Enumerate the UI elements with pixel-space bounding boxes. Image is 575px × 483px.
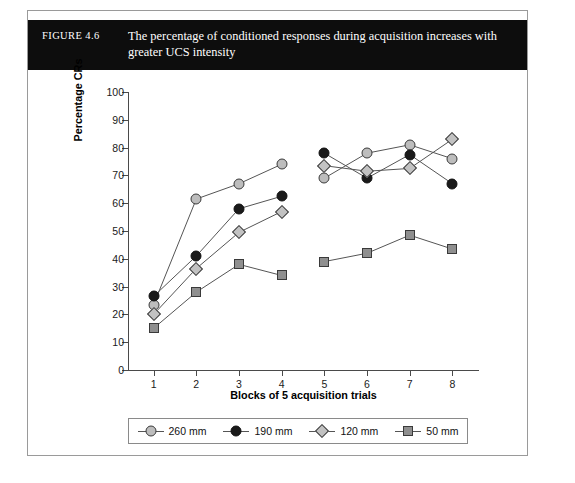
chart-legend: 260 mm190 mm120 mm50 mm: [128, 418, 468, 444]
series-line-190-mm: [154, 196, 282, 296]
data-point: [319, 173, 330, 184]
data-point: [319, 148, 330, 159]
data-point: [447, 178, 458, 189]
x-tick-mark: [452, 370, 453, 376]
x-tick-mark: [282, 370, 283, 376]
y-tick-label: 90: [112, 114, 124, 126]
series-line-260-mm: [324, 145, 452, 178]
y-axis-title: Percentage CRs: [72, 30, 84, 170]
figure-header-banner: FIGURE 4.6 The percentage of conditioned…: [28, 20, 527, 70]
data-point: [276, 191, 287, 202]
data-point: [319, 257, 329, 267]
y-tick-label: 80: [112, 142, 124, 154]
y-tick-label: 10: [112, 336, 124, 348]
legend-item-260-mm[interactable]: 260 mm: [138, 425, 207, 437]
data-point: [277, 270, 287, 280]
legend-symbol-circle-icon: [138, 425, 164, 437]
data-point: [191, 194, 202, 205]
chart-series-lines: [128, 92, 478, 370]
x-tick-mark: [239, 370, 240, 376]
x-tick-mark: [367, 370, 368, 376]
chart-plot-area: 0102030405060708090100 12345678: [128, 92, 478, 370]
figure-number: FIGURE 4.6: [42, 29, 128, 41]
series-line-50-mm: [154, 264, 282, 328]
series-line-260-mm: [154, 164, 282, 304]
circle-marker-icon: [231, 426, 242, 437]
data-point: [404, 149, 415, 160]
data-point: [191, 251, 202, 262]
data-point: [233, 178, 244, 189]
x-tick-mark: [154, 370, 155, 376]
y-tick-label: 60: [112, 197, 124, 209]
data-point: [405, 230, 415, 240]
square-marker-icon: [403, 426, 413, 436]
data-point: [362, 248, 372, 258]
diamond-marker-icon: [315, 424, 329, 438]
legend-symbol-circle-icon: [223, 425, 249, 437]
y-tick-label: 100: [106, 86, 124, 98]
legend-label: 190 mm: [254, 425, 292, 437]
y-tick-label: 30: [112, 281, 124, 293]
legend-label: 260 mm: [169, 425, 207, 437]
x-tick-mark: [410, 370, 411, 376]
data-point: [233, 203, 244, 214]
x-axis-title: Blocks of 5 acquisition trials: [128, 389, 479, 401]
legend-item-120-mm[interactable]: 120 mm: [309, 425, 378, 437]
y-tick-label: 0: [118, 364, 124, 376]
data-point: [148, 291, 159, 302]
series-line-120-mm: [154, 212, 282, 315]
circle-marker-icon: [145, 426, 156, 437]
data-point: [447, 153, 458, 164]
data-point: [447, 244, 457, 254]
data-point: [276, 159, 287, 170]
legend-item-50-mm[interactable]: 50 mm: [395, 425, 458, 437]
x-tick-mark: [324, 370, 325, 376]
legend-label: 50 mm: [426, 425, 458, 437]
series-line-50-mm: [324, 235, 452, 261]
legend-symbol-diamond-icon: [309, 425, 335, 437]
data-point: [191, 287, 201, 297]
legend-symbol-square-icon: [395, 425, 421, 437]
data-point: [149, 323, 159, 333]
x-axis-line: [128, 370, 479, 371]
legend-label: 120 mm: [340, 425, 378, 437]
y-tick-label: 40: [112, 253, 124, 265]
y-tick-label: 50: [112, 225, 124, 237]
data-point: [234, 259, 244, 269]
y-tick-label: 70: [112, 169, 124, 181]
figure-caption: The percentage of conditioned responses …: [128, 29, 515, 60]
y-tick-label: 20: [112, 308, 124, 320]
x-tick-mark: [196, 370, 197, 376]
data-point: [362, 148, 373, 159]
legend-item-190-mm[interactable]: 190 mm: [223, 425, 292, 437]
